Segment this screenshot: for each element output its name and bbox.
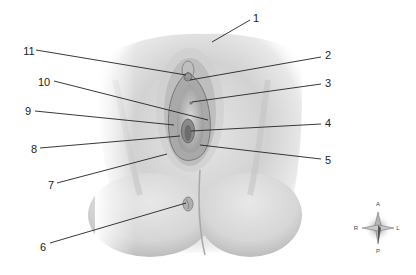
callout-label-2: 2 (325, 50, 331, 61)
compass-posterior: P (376, 248, 380, 254)
callout-label-10: 10 (38, 77, 50, 88)
callout-label-3: 3 (325, 78, 331, 89)
orientation-compass (362, 212, 394, 244)
compass-right: R (354, 225, 358, 231)
callout-label-6: 6 (40, 242, 46, 253)
anatomy-diagram: 1234567891011 A P R L (0, 0, 416, 275)
callout-label-9: 9 (25, 106, 31, 117)
callout-label-8: 8 (31, 144, 37, 155)
callout-label-1: 1 (253, 13, 259, 24)
callout-label-4: 4 (325, 118, 331, 129)
illustration (0, 0, 416, 275)
callout-label-7: 7 (48, 180, 54, 191)
callout-label-11: 11 (23, 46, 34, 57)
compass-anterior: A (376, 201, 380, 207)
callout-label-5: 5 (325, 155, 331, 166)
compass-left: L (396, 225, 399, 231)
